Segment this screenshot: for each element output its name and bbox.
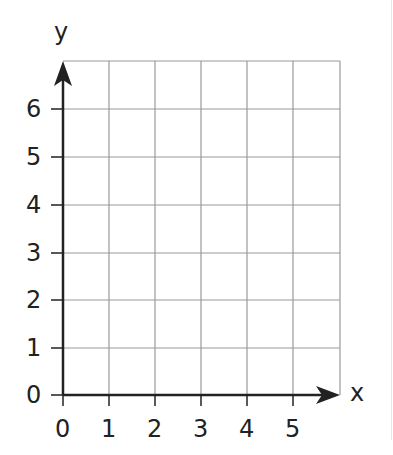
y-tick-6: 6 [26, 97, 41, 121]
y-tick-2: 2 [26, 288, 41, 312]
y-axis [54, 61, 72, 395]
x-tick-4: 4 [239, 417, 254, 441]
grid-lines [63, 61, 340, 395]
coordinate-grid [0, 0, 393, 455]
x-tick-2: 2 [147, 417, 162, 441]
y-tick-0: 0 [26, 383, 41, 407]
y-tick-5: 5 [26, 145, 41, 169]
x-tick-1: 1 [101, 417, 116, 441]
page-edge [391, 0, 392, 440]
y-axis-label: y [54, 20, 68, 44]
y-tick-4: 4 [26, 193, 41, 217]
x-tick-3: 3 [193, 417, 208, 441]
x-axis-label: x [350, 381, 364, 405]
tick-marks [51, 109, 293, 406]
y-tick-1: 1 [26, 336, 41, 360]
x-tick-5: 5 [285, 417, 300, 441]
y-tick-3: 3 [26, 241, 41, 265]
x-tick-0: 0 [55, 417, 70, 441]
